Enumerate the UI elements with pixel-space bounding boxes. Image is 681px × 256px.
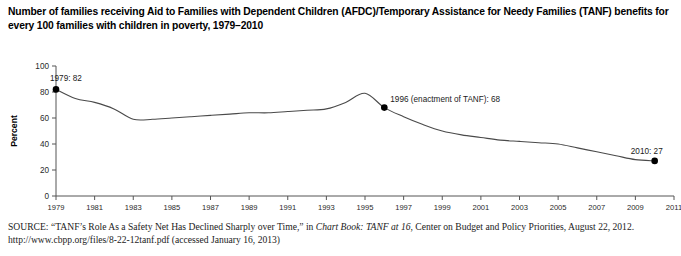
data-line [56,89,655,160]
line-chart: 0204060801001979198119831985198719891991… [0,52,681,217]
x-tick-label: 2003 [511,203,528,212]
source-label: SOURCE: [8,221,49,232]
x-tick-label: 1983 [125,203,142,212]
y-tick-label: 80 [40,88,50,97]
x-tick-label: 1989 [241,203,258,212]
y-tick-label: 20 [40,166,50,175]
y-tick-label: 40 [40,140,50,149]
x-tick-label: 1981 [86,203,103,212]
source-text-before: “TANF’s Role As a Safety Net Has Decline… [49,221,316,232]
x-tick-label: 1997 [395,203,412,212]
x-tick-label: 2009 [627,203,644,212]
x-tick-label: 2011 [666,203,681,212]
x-tick-label: 2001 [472,203,489,212]
y-tick-label: 0 [44,192,49,201]
page-title: Number of families receiving Aid to Fami… [8,5,676,32]
data-point-label: 2010: 27 [631,147,663,156]
chart-figure-page: Number of families receiving Aid to Fami… [0,0,681,256]
data-point-marker [381,104,388,111]
y-axis-title: Percent [9,115,19,147]
x-tick-label: 1999 [434,203,451,212]
data-point-label: 1996 (enactment of TANF): 68 [390,95,500,104]
x-tick-label: 1985 [163,203,180,212]
x-tick-label: 2005 [550,203,567,212]
data-point-label: 1979: 82 [50,74,82,83]
source-italic-title: Chart Book: TANF at 16 [316,221,411,232]
data-point-marker [53,86,60,93]
y-tick-label: 60 [40,114,50,123]
x-tick-label: 1979 [48,203,65,212]
x-tick-label: 2007 [588,203,605,212]
x-tick-label: 1993 [318,203,335,212]
data-point-marker [651,158,658,165]
x-tick-label: 1995 [357,203,374,212]
x-tick-label: 1991 [279,203,296,212]
x-tick-label: 1987 [202,203,219,212]
y-tick-label: 100 [35,62,49,71]
source-note: SOURCE: “TANF’s Role As a Safety Net Has… [8,221,676,246]
